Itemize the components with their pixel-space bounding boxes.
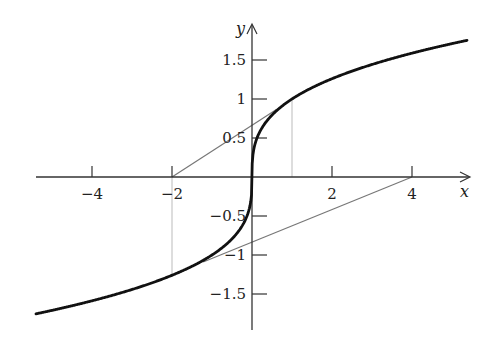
y-tick-label: 1.5 (222, 51, 246, 69)
x-tick-label: 2 (327, 185, 337, 203)
x-tick-label: −2 (161, 185, 183, 203)
y-tick-label: −1.5 (210, 285, 246, 303)
y-tick-label: −1 (224, 246, 246, 264)
x-tick-label: −4 (81, 185, 103, 203)
y-tick-label: 0.5 (222, 129, 246, 147)
y-tick-label: 1 (236, 90, 246, 108)
y-tick-label: −0.5 (210, 207, 246, 225)
chart: y x −4−2241.510.5−0.5−1−1.5 (0, 0, 493, 351)
y-axis-label: y (235, 19, 246, 38)
x-axis-label: x (460, 182, 469, 201)
x-tick-label: 4 (407, 185, 417, 203)
